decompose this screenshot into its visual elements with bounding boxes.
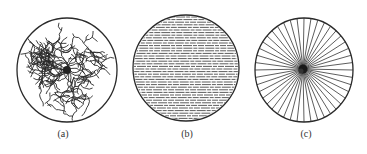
panel-a-label: (a) — [57, 128, 68, 139]
panel-a-dendritic-pattern — [15, 18, 117, 131]
panel-c-radial-spokes-pattern — [255, 18, 353, 122]
panel-c-label: (c) — [300, 128, 311, 139]
panel-b-label: (b) — [181, 128, 193, 139]
panel-b-parallel-lines-pattern — [133, 15, 240, 121]
